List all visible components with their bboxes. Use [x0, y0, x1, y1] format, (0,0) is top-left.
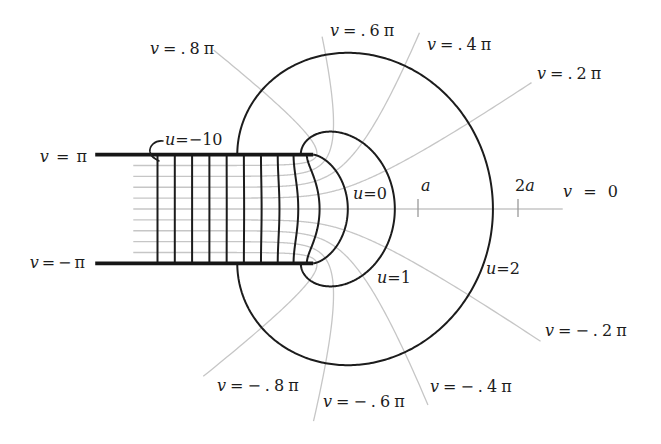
label-u-1: u=1	[377, 268, 411, 287]
label-v-0.4pi: v=.4π	[427, 35, 495, 54]
label-v-minus-0.6pi: v=−.6π	[323, 392, 409, 411]
label-plate-bottom: v=−π	[30, 253, 88, 272]
label-u-2: u=2	[486, 259, 520, 278]
label-tick-a: a	[421, 176, 431, 195]
label-u-0: u=0	[353, 184, 387, 203]
label-v-minus-0.8pi: v=−.8π	[217, 376, 303, 395]
label-plate-top: v = π	[40, 147, 88, 166]
label-u-minus-10: u=−10	[165, 130, 222, 149]
label-v-0.6pi: v=.6π	[330, 21, 398, 40]
strip-u-line-minus-4	[261, 155, 262, 264]
label-v-0.2pi: v=.2π	[537, 64, 605, 83]
label-tick-2a: 2a	[515, 176, 535, 195]
label-v-minus-0.2pi: v=−.2π	[545, 321, 631, 340]
label-v-0.8pi: v=.8π	[150, 39, 218, 58]
label-v-0: v = 0	[563, 182, 621, 201]
conformal-map-diagram: v = π v=−π u=−10 v=.8π v=.6π v=.4π v=.2π…	[0, 0, 661, 444]
label-v-minus-0.4pi: v=−.4π	[430, 377, 516, 396]
